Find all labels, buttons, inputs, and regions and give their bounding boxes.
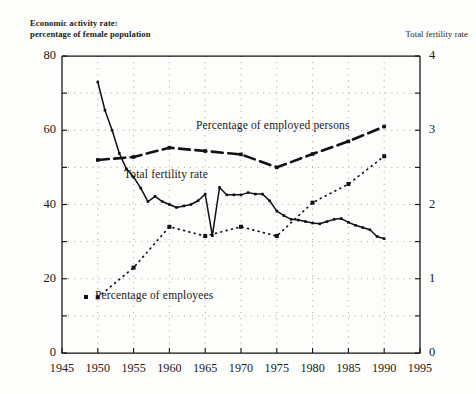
x-axis-tick-label: 1985 [330,361,366,376]
y2-axis-tick-label: 3 [429,122,449,137]
x-axis-tick-label: 1955 [116,361,152,376]
y-axis-tick-label: 0 [26,345,56,360]
x-axis-tick-label: 1945 [44,361,80,376]
x-axis-tick-label: 1960 [151,361,187,376]
annotation-employed-persons: Percentage of employed persons [196,119,350,131]
series-layer [96,81,386,300]
y2-axis-tick-label: 0 [429,345,449,360]
y2-axis-tick-label: 4 [429,48,449,63]
x-axis-tick-label: 1975 [259,361,295,376]
x-axis-tick-label: 1990 [366,361,402,376]
axis-ticks [62,56,420,353]
chart-page: Economic activity rate: percentage of fe… [0,0,476,394]
x-axis-tick-label: 1970 [223,361,259,376]
y2-axis-tick-label: 2 [429,197,449,212]
y-axis-tick-label: 40 [26,197,56,212]
grid-layer [62,56,420,353]
annotation-total-fertility-rate: Total fertility rate [124,168,208,180]
x-axis-tick-label: 1995 [402,361,438,376]
y-axis-tick-label: 20 [26,271,56,286]
plot-frame [62,56,420,353]
y-axis-tick-label: 80 [26,48,56,63]
x-axis-tick-label: 1980 [295,361,331,376]
y2-axis-tick-label: 1 [429,271,449,286]
chart-canvas [0,0,476,394]
annotation-employees: Percentage of employees [95,289,213,301]
x-axis-tick-label: 1965 [187,361,223,376]
y-axis-tick-label: 60 [26,122,56,137]
x-axis-tick-label: 1950 [80,361,116,376]
